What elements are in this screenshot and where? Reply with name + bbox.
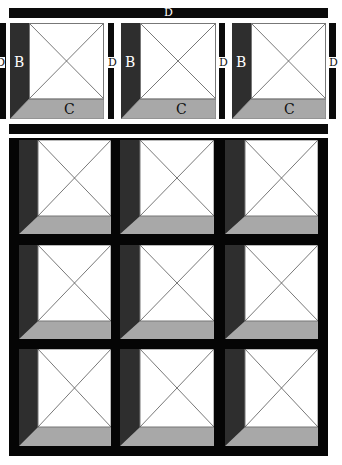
- grid-tile-r3c2: [120, 349, 214, 446]
- side-d-bar-2: [108, 23, 114, 119]
- top-d-label: D: [164, 7, 173, 18]
- top-tile-3: B C: [232, 23, 326, 119]
- side-d-bar-1: [0, 23, 6, 119]
- grid-tile-r1c2: [120, 140, 214, 234]
- top-tile-1: B C: [10, 23, 104, 119]
- grid-tile-r2c3: [225, 245, 318, 339]
- tile-box-icon: [10, 23, 104, 119]
- grid-tile-r2c2: [120, 245, 214, 339]
- grid-tile-r3c1: [19, 349, 111, 446]
- side-d-label-3: D: [219, 57, 228, 68]
- strip-label-b: B: [236, 55, 246, 69]
- top-tile-2: B C: [121, 23, 216, 119]
- side-d-bar-3: [219, 23, 225, 119]
- tile-grid: [9, 138, 328, 456]
- strip-label-b: B: [125, 55, 135, 69]
- grid-tile-r3c3: [225, 349, 318, 446]
- separator-bar: [9, 124, 328, 134]
- grid-tile-r1c1: [19, 140, 111, 234]
- tile-box-icon: [121, 23, 216, 119]
- side-d-label-1: D: [0, 57, 5, 68]
- floor-label-c: C: [176, 102, 187, 116]
- side-d-label-2: D: [108, 57, 117, 68]
- tile-box-icon: [232, 23, 326, 119]
- side-d-bar-4: [329, 23, 336, 119]
- floor-label-c: C: [64, 102, 75, 116]
- floor-label-c: C: [284, 102, 295, 116]
- side-d-label-4: D: [329, 57, 338, 68]
- grid-tile-r1c3: [225, 140, 318, 234]
- strip-label-b: B: [14, 55, 24, 69]
- top-d-bar: D: [9, 8, 328, 18]
- grid-tile-r2c1: [19, 245, 111, 339]
